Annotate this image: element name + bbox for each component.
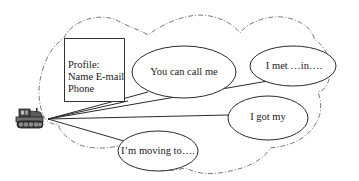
profile-title: Profile: — [68, 59, 124, 71]
profile-phone: Phone — [68, 83, 124, 95]
connector-moving-to — [48, 119, 124, 141]
bubble-moving-to-label: I’m moving to…. — [121, 146, 195, 157]
tractor-icon — [13, 106, 47, 130]
bubble-call-me-label: You can call me — [150, 67, 217, 78]
profile-name-email: Name E-mail — [68, 71, 124, 83]
connector-profile — [48, 101, 128, 119]
diagram-canvas: Profile: Name E-mail Phone You can call … — [0, 0, 359, 181]
bubble-got-my-label: I got my — [250, 112, 286, 123]
bubble-met-in-label: I met …in…. — [266, 61, 322, 72]
connector-got-my — [48, 115, 228, 119]
profile-card[interactable]: Profile: Name E-mail Phone — [64, 38, 125, 102]
